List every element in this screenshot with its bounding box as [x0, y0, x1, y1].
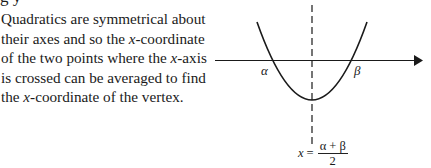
- vertex-formula: x = α + β 2: [298, 139, 348, 168]
- parabola-diagram: α β: [0, 0, 431, 168]
- formula-equals: =: [307, 146, 314, 161]
- root-label-beta: β: [353, 63, 361, 78]
- root-label-alpha: α: [261, 63, 269, 78]
- formula-fraction: α + β 2: [318, 139, 348, 168]
- formula-lhs: x: [298, 146, 304, 161]
- formula-numerator: α + β: [318, 139, 348, 154]
- formula-denominator: 2: [330, 154, 336, 168]
- arrow-right-icon: [414, 55, 423, 66]
